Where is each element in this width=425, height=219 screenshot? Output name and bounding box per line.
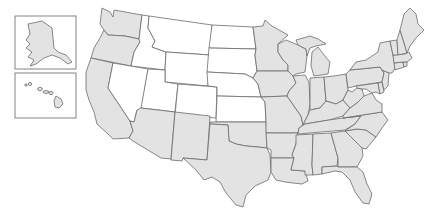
hawaii-inset-box bbox=[15, 73, 76, 118]
us-map bbox=[0, 0, 425, 219]
state-new-mexico[interactable] bbox=[171, 112, 210, 161]
state-rhode-island[interactable] bbox=[403, 62, 407, 67]
state-montana[interactable] bbox=[148, 16, 212, 55]
state-kansas[interactable] bbox=[216, 96, 266, 122]
state-arizona[interactable] bbox=[129, 108, 175, 159]
state-wyoming[interactable] bbox=[165, 52, 210, 86]
state-north-dakota[interactable] bbox=[209, 25, 256, 49]
state-florida[interactable] bbox=[322, 166, 372, 204]
